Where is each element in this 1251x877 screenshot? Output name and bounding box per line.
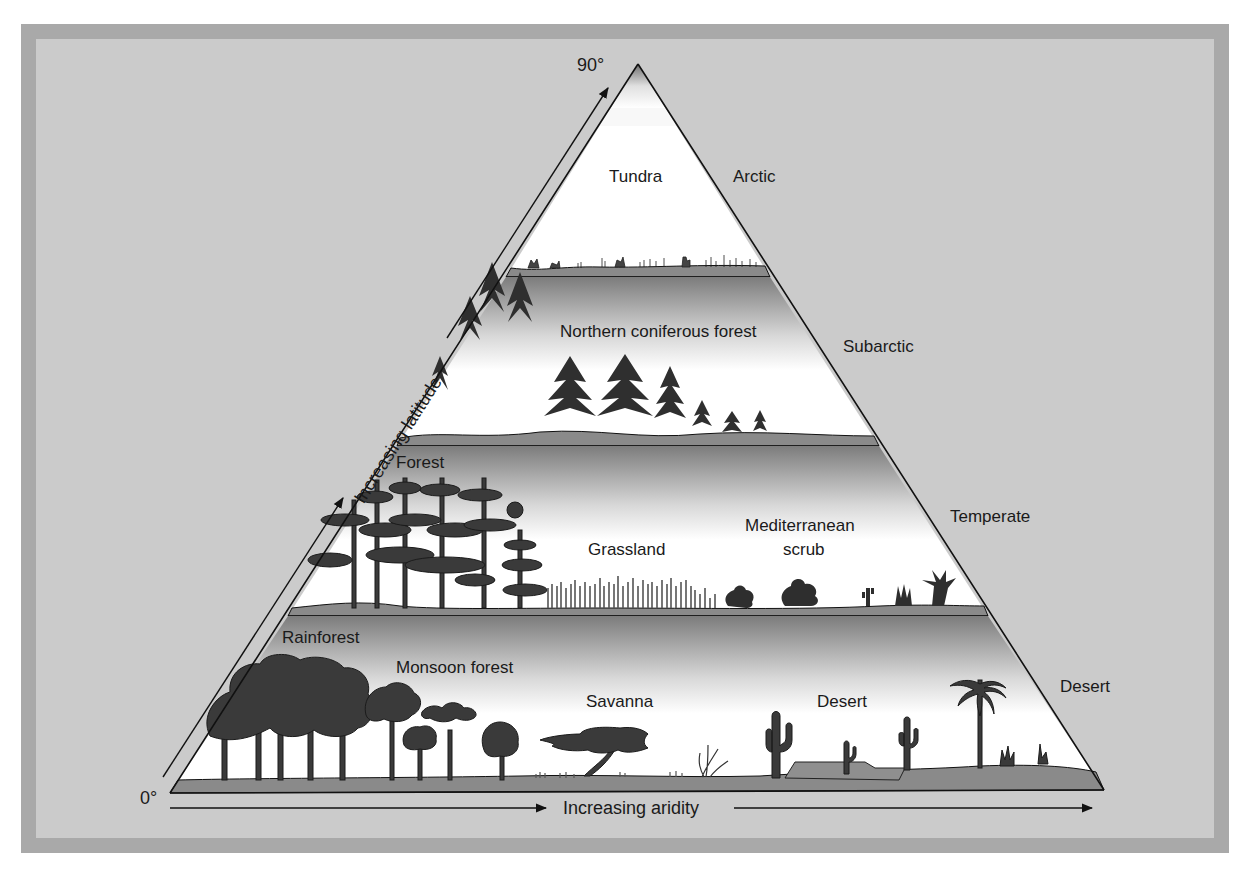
biome-label-desert: Desert xyxy=(817,692,867,712)
band-coniferous xyxy=(397,262,879,446)
biome-label-monsoon-forest: Monsoon forest xyxy=(396,658,513,678)
latitude-min-label: 0° xyxy=(140,788,157,808)
biome-label-grassland: Grassland xyxy=(588,540,665,560)
band-temperate xyxy=(288,446,988,616)
zone-label-desert: Desert xyxy=(1060,677,1110,697)
biome-label-savanna: Savanna xyxy=(586,692,653,712)
biome-label-forest: Forest xyxy=(396,453,444,473)
biome-label-northern-coniferous-forest: Northern coniferous forest xyxy=(560,322,757,342)
zone-label-arctic: Arctic xyxy=(733,167,776,187)
biome-label-tundra: Tundra xyxy=(609,167,662,187)
zone-label-temperate: Temperate xyxy=(950,507,1030,527)
biome-triangle-diagram xyxy=(0,0,1251,877)
latitude-max-label: 90° xyxy=(577,55,604,75)
zone-label-subarctic: Subarctic xyxy=(843,337,914,357)
biome-label-scrub: scrub xyxy=(783,540,825,560)
biome-label-mediterranean: Mediterranean xyxy=(745,516,855,536)
aridity-axis-label: Increasing aridity xyxy=(563,798,699,818)
biome-label-rainforest: Rainforest xyxy=(282,628,359,648)
